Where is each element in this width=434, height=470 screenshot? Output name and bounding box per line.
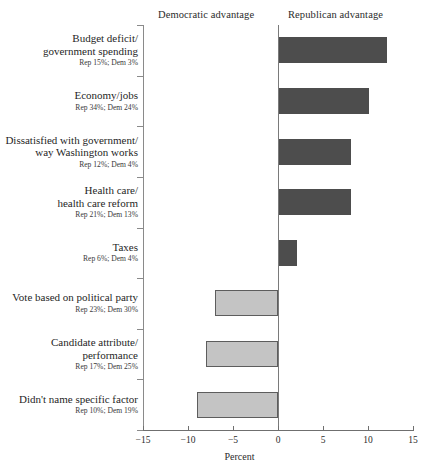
category-tick — [137, 126, 143, 127]
bar-row: Vote based on political partyRep 23%; De… — [0, 278, 434, 329]
category-name-line1: Didn't name specific factor — [0, 393, 138, 406]
category-name-line1: Dissatisfied with government/ — [0, 133, 138, 146]
bar-row: Dissatisfied with government/way Washing… — [0, 126, 434, 177]
category-name-line2: government spending — [0, 45, 138, 58]
x-axis: −15−10−5051015 Percent — [0, 430, 434, 470]
category-tick — [137, 379, 143, 380]
category-name-line2: performance — [0, 349, 138, 362]
category-percent-sublabel: Rep 10%; Dem 19% — [0, 406, 138, 416]
category-name-line1: Taxes — [0, 241, 138, 254]
x-axis-tick — [188, 426, 189, 431]
x-axis-title-text: Percent — [225, 451, 255, 462]
bar-republican — [279, 88, 369, 114]
x-axis-tick-label: 10 — [363, 435, 373, 445]
category-name-line1: Health care/ — [0, 184, 138, 197]
category-percent-sublabel: Rep 34%; Dem 24% — [0, 103, 138, 113]
category-label-group: Didn't name specific factorRep 10%; Dem … — [0, 393, 138, 417]
x-axis-tick — [233, 426, 234, 431]
category-label-group: Candidate attribute/performanceRep 17%; … — [0, 336, 138, 372]
x-axis-tick — [278, 426, 279, 431]
x-axis-tick — [368, 426, 369, 431]
bar-row: Health care/health care reformRep 21%; D… — [0, 177, 434, 228]
x-axis-tick-label: 5 — [321, 435, 326, 445]
category-tick — [137, 329, 143, 330]
category-label-group: Economy/jobsRep 34%; Dem 24% — [0, 89, 138, 113]
bar-row: Didn't name specific factorRep 10%; Dem … — [0, 379, 434, 430]
category-name-line2: way Washington works — [0, 146, 138, 159]
democratic-advantage-label: Democratic advantage — [158, 9, 254, 20]
category-tick — [137, 177, 143, 178]
category-name-line2: health care reform — [0, 197, 138, 210]
category-label-group: TaxesRep 6%; Dem 4% — [0, 241, 138, 265]
x-axis-tick-label: 15 — [408, 435, 418, 445]
category-name-line1: Economy/jobs — [0, 89, 138, 102]
category-name-line1: Budget deficit/ — [0, 32, 138, 45]
bar-republican — [279, 240, 297, 266]
x-axis-tick — [143, 426, 144, 431]
bar-democratic — [215, 290, 278, 316]
x-axis-tick — [413, 426, 414, 431]
bar-democratic — [206, 341, 278, 367]
category-label-group: Health care/health care reformRep 21%; D… — [0, 184, 138, 220]
category-percent-sublabel: Rep 21%; Dem 13% — [0, 210, 138, 220]
category-percent-sublabel: Rep 17%; Dem 25% — [0, 362, 138, 372]
category-percent-sublabel: Rep 15%; Dem 3% — [0, 58, 138, 68]
x-axis-tick-label: 0 — [276, 435, 281, 445]
category-name-line1: Candidate attribute/ — [0, 336, 138, 349]
x-axis-tick-label: −10 — [181, 435, 196, 445]
x-axis-tick — [323, 426, 324, 431]
category-percent-sublabel: Rep 12%; Dem 4% — [0, 160, 138, 170]
x-axis-title: Percent — [0, 451, 434, 462]
republican-advantage-label: Republican advantage — [288, 9, 383, 20]
bar-republican — [279, 189, 351, 215]
bar-democratic — [197, 392, 278, 418]
diverging-bar-chart: Democratic advantage Republican advantag… — [0, 0, 434, 470]
bar-row: Candidate attribute/performanceRep 17%; … — [0, 329, 434, 380]
x-axis-tick-label: −5 — [228, 435, 238, 445]
category-label-group: Dissatisfied with government/way Washing… — [0, 133, 138, 169]
category-tick — [137, 278, 143, 279]
category-label-group: Vote based on political partyRep 23%; De… — [0, 292, 138, 316]
bar-row: Budget deficit/government spendingRep 15… — [0, 25, 434, 76]
bar-republican — [279, 37, 387, 63]
category-name-line1: Vote based on political party — [0, 292, 138, 305]
bar-row: Economy/jobsRep 34%; Dem 24% — [0, 76, 434, 127]
bar-republican — [279, 139, 351, 165]
category-percent-sublabel: Rep 23%; Dem 30% — [0, 305, 138, 315]
category-label-group: Budget deficit/government spendingRep 15… — [0, 32, 138, 68]
plot-area: Budget deficit/government spendingRep 15… — [0, 25, 434, 430]
category-tick — [137, 25, 143, 26]
category-percent-sublabel: Rep 6%; Dem 4% — [0, 255, 138, 265]
category-tick — [137, 76, 143, 77]
bar-row: TaxesRep 6%; Dem 4% — [0, 228, 434, 279]
category-tick — [137, 228, 143, 229]
x-axis-tick-label: −15 — [136, 435, 151, 445]
